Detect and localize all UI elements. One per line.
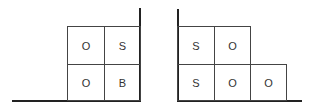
left-cell-r1c0: O <box>67 64 105 101</box>
cell-label: O <box>228 77 237 89</box>
cell-label: B <box>119 77 126 89</box>
cell-label: S <box>192 77 199 89</box>
cell-label: S <box>119 40 126 52</box>
cell-label: O <box>228 40 237 52</box>
right-cell-r0c0: S <box>177 26 215 65</box>
left-cell-r0c1: S <box>104 26 141 65</box>
right-cell-r0c1: O <box>214 26 251 65</box>
cell-label: S <box>192 40 199 52</box>
left-cell-r1c1: B <box>104 64 141 101</box>
cell-label: O <box>82 40 91 52</box>
left-cell-r0c0: O <box>67 26 105 65</box>
right-cell-r1c1: O <box>214 64 251 101</box>
right-cell-r1c0: S <box>177 64 215 101</box>
cell-label: O <box>264 77 273 89</box>
right-cell-r1c2: O <box>250 64 287 101</box>
cell-label: O <box>82 77 91 89</box>
